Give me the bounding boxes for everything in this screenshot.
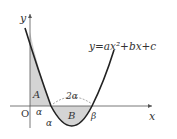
region-a-label: A <box>32 89 40 100</box>
y-axis-arrow <box>28 14 32 18</box>
equation-label: y=ax²+bx+c <box>88 40 156 52</box>
x-axis-arrow <box>148 104 152 108</box>
root-beta-label: β <box>90 111 96 121</box>
y-axis-label: y <box>19 12 27 25</box>
origin-label: O <box>21 108 29 119</box>
segment-o-alpha-label: α <box>36 107 42 117</box>
x-axis-label: x <box>149 110 156 123</box>
segment-alpha-beta-label: 2α <box>65 91 78 101</box>
region-b-label: B <box>67 110 75 121</box>
root-alpha-label: α <box>46 118 52 128</box>
parabola-diagram: y x O y=ax²+bx+c A B α α β 2α <box>0 0 177 139</box>
